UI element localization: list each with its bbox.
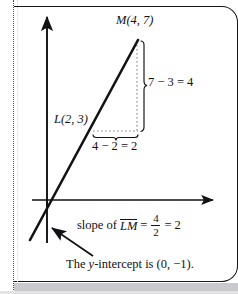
figure-stage: M(4, 7) L(2, 3) 7 − 3 = 4 4 − 2 = 2 slop…	[0, 0, 238, 294]
slope-numerator: 4	[153, 213, 159, 225]
run-label: 4 − 2 = 2	[92, 140, 137, 153]
slope-fraction: 4 2	[151, 213, 160, 238]
rise-label: 7 − 3 = 4	[148, 76, 193, 89]
page-shadow-band	[14, 283, 238, 291]
slope-equals-2: =	[164, 219, 171, 232]
slope-result: 2	[174, 219, 180, 232]
slope-equals-1: =	[140, 219, 147, 232]
y-intercept-pre: The	[66, 257, 89, 271]
y-intercept-post: -intercept is (0, −1).	[94, 257, 194, 271]
point-label-m: M(4, 7)	[116, 14, 154, 27]
rise-brace	[141, 41, 148, 132]
point-label-m-text: M(4, 7)	[116, 13, 154, 27]
rise-label-text: 7 − 3 = 4	[148, 75, 193, 89]
slope-denominator: 2	[153, 226, 159, 238]
point-label-l-text: L(2, 3)	[54, 112, 88, 126]
slope-segment-overline: LM	[120, 219, 137, 233]
point-label-l: L(2, 3)	[54, 113, 88, 126]
slope-prefix: slope of	[77, 219, 117, 232]
y-intercept-note: The y-intercept is (0, −1).	[66, 258, 194, 271]
run-label-text: 4 − 2 = 2	[92, 139, 137, 153]
slope-equation: slope of LM = 4 2 = 2	[77, 213, 181, 238]
